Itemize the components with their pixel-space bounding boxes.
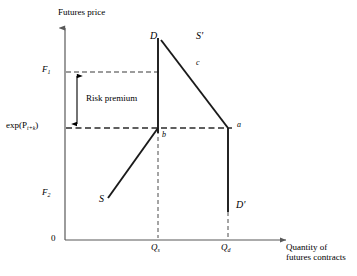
x-tick-label-qd: Qd xyxy=(221,243,230,253)
x-axis-title-line2: futures contracts xyxy=(286,253,346,263)
curve-label-demand: D xyxy=(150,30,157,41)
point-label-c: c xyxy=(196,59,200,68)
y-tick-label-expected-price: exp(Pt+k) xyxy=(6,121,38,131)
curve-label-supply-shifted: S' xyxy=(196,30,203,41)
y-axis-title: Futures price xyxy=(58,8,105,18)
x-tick-qs-subscript: s xyxy=(158,247,160,253)
curve-label-demand-shifted: D' xyxy=(236,199,245,210)
y-tick-f1-subscript: 1 xyxy=(48,69,51,75)
demand-curve-line xyxy=(161,40,228,128)
supply-curve-line xyxy=(108,128,158,198)
point-label-b: b xyxy=(162,131,166,140)
y-tick-f2-subscript: 2 xyxy=(48,192,51,198)
x-axis-title: Quantity of futures contracts xyxy=(286,243,346,263)
x-tick-label-qs: Qs xyxy=(151,243,160,253)
x-tick-qd-subscript: d xyxy=(228,247,231,253)
curve-label-supply: S xyxy=(99,193,104,204)
risk-premium-label: Risk premium xyxy=(86,94,137,104)
futures-market-diagram: Futures price 0 F1 exp(Pt+k) F2 Qs Qd Qu… xyxy=(0,0,357,276)
origin-label: 0 xyxy=(51,234,56,244)
expected-price-base: exp(P xyxy=(6,120,27,130)
point-label-a: a xyxy=(237,121,241,130)
y-tick-label-f1: F1 xyxy=(42,65,50,75)
expected-price-close: ) xyxy=(35,120,38,130)
y-tick-label-f2: F2 xyxy=(42,188,50,198)
